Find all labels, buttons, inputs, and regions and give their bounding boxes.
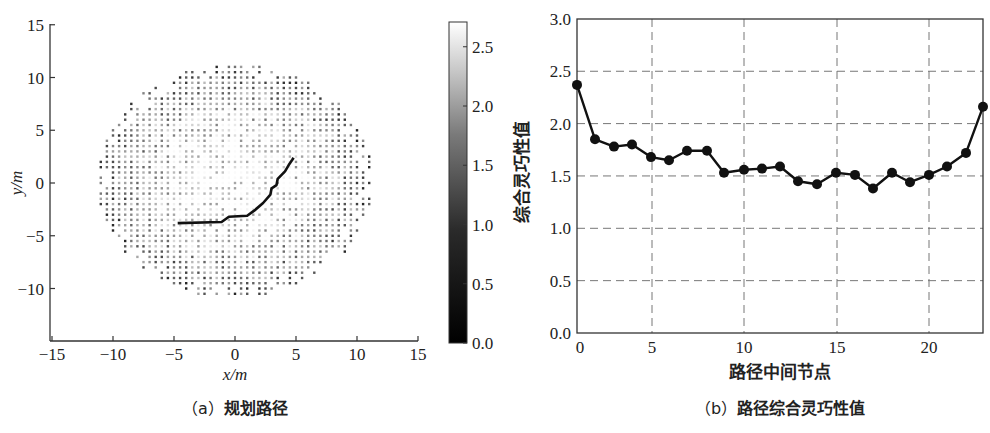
figure: −15−10−5051015 −10−5051015 x/m y/m 0.00.…	[0, 0, 990, 433]
chart-b: 05101520 0.00.51.01.52.02.53.0 路径中间节点 综合…	[512, 10, 988, 418]
data-point-marker	[868, 184, 878, 194]
data-point-marker	[682, 146, 692, 156]
colorbar-tick-label: 2.5	[472, 38, 493, 57]
b-y-ticks: 0.00.51.01.52.02.53.0	[550, 10, 571, 343]
data-point-marker	[702, 146, 712, 156]
b-x-tick-label: 5	[648, 338, 657, 357]
a-y-tick-label: 15	[27, 16, 44, 35]
a-x-tick-label: −10	[100, 345, 127, 364]
data-point-marker	[924, 170, 934, 180]
a-y-tick-label: 5	[36, 121, 45, 140]
b-y-tick-label: 2.5	[550, 62, 571, 81]
b-y-tick-label: 0.5	[550, 272, 571, 291]
b-x-axis-label: 路径中间节点	[729, 362, 831, 382]
colorbar	[449, 22, 467, 343]
data-point-marker	[757, 164, 767, 174]
a-x-tick-label: 15	[410, 345, 427, 364]
a-x-tick-label: 5	[292, 345, 301, 364]
colorbar-tick-label: 2.0	[472, 97, 493, 116]
dexterity-line	[577, 85, 983, 189]
data-point-marker	[831, 168, 841, 178]
data-point-marker	[850, 170, 860, 180]
a-y-tick-label: −5	[26, 227, 44, 246]
a-y-axis-label: y/m	[7, 171, 26, 198]
colorbar-tick-label: 0.5	[472, 275, 493, 294]
b-gridlines	[577, 19, 983, 333]
b-y-tick-label: 1.5	[550, 167, 571, 186]
data-point-marker	[905, 177, 915, 187]
colorbar-ticks: 0.00.51.01.52.02.5	[463, 38, 493, 353]
chart-a: −15−10−5051015 −10−5051015 x/m y/m 0.00.…	[7, 16, 493, 418]
a-x-ticks: −15−10−5051015	[39, 336, 427, 364]
data-point-marker	[942, 162, 952, 172]
data-point-marker	[961, 148, 971, 158]
dexterity-markers	[572, 80, 988, 194]
data-point-marker	[978, 102, 988, 112]
b-x-ticks: 05101520	[576, 338, 938, 357]
data-point-marker	[627, 140, 637, 150]
colorbar-tick-label: 0.0	[472, 334, 493, 353]
data-point-marker	[719, 168, 729, 178]
data-point-marker	[793, 176, 803, 186]
data-point-marker	[664, 155, 674, 165]
b-y-tick-label: 3.0	[550, 10, 571, 29]
colorbar-tick-label: 1.0	[472, 216, 493, 235]
b-x-tick-label: 0	[576, 338, 585, 357]
data-point-marker	[887, 168, 897, 178]
data-point-marker	[572, 80, 582, 90]
data-point-marker	[775, 162, 785, 172]
a-y-tick-label: −10	[17, 280, 44, 299]
data-point-marker	[646, 152, 656, 162]
data-point-marker	[590, 134, 600, 144]
data-point-marker	[739, 165, 749, 175]
a-x-tick-label: −5	[165, 345, 183, 364]
a-y-tick-label: 10	[27, 69, 44, 88]
b-y-axis-label: 综合灵巧性值	[512, 121, 532, 223]
b-x-tick-label: 20	[921, 338, 938, 357]
b-x-tick-label: 10	[736, 338, 753, 357]
caption-a: （a）规划路径	[182, 399, 288, 418]
data-point-marker	[812, 179, 822, 189]
a-x-tick-label: 10	[349, 345, 366, 364]
data-point-marker	[609, 142, 619, 152]
b-x-tick-label: 15	[829, 338, 846, 357]
colorbar-tick-label: 1.5	[472, 156, 493, 175]
a-y-tick-label: 0	[36, 174, 45, 193]
b-y-tick-label: 1.0	[550, 219, 571, 238]
b-y-tick-label: 2.0	[550, 115, 571, 134]
a-x-tick-label: 0	[231, 345, 240, 364]
a-x-tick-label: −15	[39, 345, 66, 364]
caption-b: （b）路径综合灵巧性值	[695, 399, 865, 418]
a-x-axis-label: x/m	[222, 365, 248, 384]
workspace-dexterity-points	[100, 66, 371, 295]
b-y-tick-label: 0.0	[550, 324, 571, 343]
